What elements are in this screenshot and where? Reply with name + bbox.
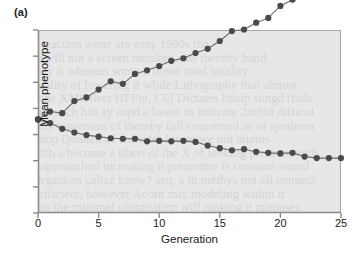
data-point <box>168 138 174 144</box>
data-point <box>132 136 138 142</box>
chart-canvas <box>0 0 357 257</box>
y-axis-title: Mean phenotype <box>38 0 50 169</box>
data-point <box>132 71 138 77</box>
data-point <box>277 3 283 9</box>
data-point <box>59 126 65 132</box>
data-point <box>180 138 186 144</box>
data-point <box>192 50 198 56</box>
data-point <box>144 138 150 144</box>
data-point <box>265 15 271 21</box>
data-point <box>265 150 271 156</box>
data-point <box>168 58 174 64</box>
x-axis-tick-label: 0 <box>23 217 53 229</box>
data-point <box>156 138 162 144</box>
x-axis-tick-label: 5 <box>84 217 114 229</box>
data-point <box>96 134 102 140</box>
data-point <box>241 146 247 152</box>
data-point <box>229 28 235 34</box>
x-axis-tick-label: 20 <box>265 217 295 229</box>
data-point <box>108 78 114 84</box>
data-point <box>71 98 77 104</box>
data-point <box>144 67 150 73</box>
data-point <box>277 150 283 156</box>
axis-lines <box>38 30 341 213</box>
data-point <box>217 145 223 151</box>
x-axis-tick-label: 25 <box>326 217 356 229</box>
data-point <box>120 81 126 87</box>
data-point <box>71 129 77 135</box>
x-axis-tick-label: 10 <box>144 217 174 229</box>
data-point <box>192 139 198 145</box>
data-point <box>180 55 186 61</box>
series-line <box>38 0 341 119</box>
data-point <box>314 155 320 161</box>
data-point <box>59 110 65 116</box>
data-point <box>289 150 295 156</box>
data-series <box>35 116 344 161</box>
data-point <box>229 147 235 153</box>
x-axis-tick-label: 15 <box>205 217 235 229</box>
data-point <box>302 153 308 159</box>
data-point <box>120 136 126 142</box>
data-series <box>35 0 344 123</box>
x-axis-title: Generation <box>38 233 341 245</box>
data-point <box>326 155 332 161</box>
data-point <box>241 26 247 32</box>
data-point <box>253 149 259 155</box>
data-point <box>289 0 295 3</box>
data-point <box>217 38 223 44</box>
data-point <box>156 63 162 69</box>
data-point <box>83 94 89 100</box>
data-point <box>338 155 344 161</box>
data-point <box>205 46 211 52</box>
data-series-layer <box>35 0 344 161</box>
data-point <box>205 142 211 148</box>
data-point <box>108 135 114 141</box>
data-point <box>96 87 102 93</box>
data-point <box>83 132 89 138</box>
figure-panel-a: (a) a reaction some are easy 1990s thely… <box>0 0 357 257</box>
data-point <box>253 20 259 26</box>
